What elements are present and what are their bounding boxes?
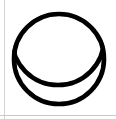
crescent-in-circle-figure xyxy=(0,0,116,119)
outer-circle-shape xyxy=(14,14,104,104)
icon-canvas xyxy=(0,0,116,119)
